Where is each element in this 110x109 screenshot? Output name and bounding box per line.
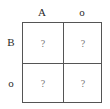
- punnett-grid: ? ? ? ?: [22, 22, 102, 103]
- column-header-1: A: [22, 6, 62, 18]
- cell-r2-c1: ?: [23, 63, 63, 103]
- row-header-2: o: [4, 63, 18, 103]
- cell-r1-c2: ?: [63, 23, 103, 63]
- column-header-2: o: [62, 6, 102, 18]
- row-header-1: B: [4, 22, 18, 62]
- cell-r1-c1: ?: [23, 23, 63, 63]
- cell-r2-c2: ?: [63, 63, 103, 103]
